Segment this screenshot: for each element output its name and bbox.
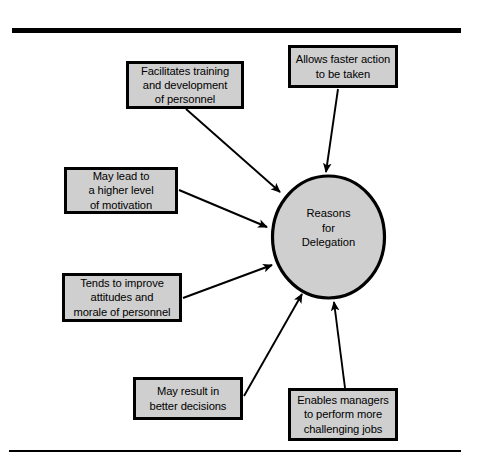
node-tends-to-improve-attitudes[interactable]: Tends to improve attitudes and morale of… — [62, 273, 182, 322]
hub-ellipse — [273, 176, 385, 298]
connector-tends-to-hub — [183, 265, 272, 298]
diagram-canvas: Reasons for Delegation Facilitates train… — [0, 0, 483, 471]
connector-mayresult-to-hub — [244, 294, 302, 396]
node-enables-managers[interactable]: Enables managers to perform more challen… — [288, 388, 398, 441]
connector-maylead-to-hub — [179, 190, 267, 227]
node-facilitates-training[interactable]: Facilitates training and development of … — [126, 61, 244, 109]
node-may-result-in-better-decisions[interactable]: May result in better decisions — [133, 377, 243, 420]
connector-enables-to-hub — [334, 302, 345, 388]
node-may-lead-to-higher-motivation[interactable]: May lead to a higher level of motivation — [64, 167, 178, 214]
node-allows-faster-action[interactable]: Allows faster action to be taken — [288, 45, 398, 88]
connector-facilitates-to-hub — [186, 109, 280, 192]
connector-allows-to-hub — [326, 89, 338, 172]
